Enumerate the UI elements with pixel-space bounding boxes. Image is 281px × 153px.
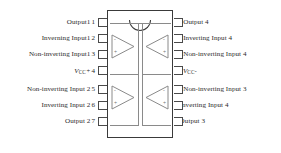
rail-center-lower-2 [142,74,143,126]
pin-label-12: 12Non-inverting Input 4 [175,50,248,59]
pinout-diagram: Output11 Inverning Input12 Non-inverting… [0,0,281,153]
dip-14-package-body: - + - + - + - + [107,10,173,138]
pin-1-name: Output1 [67,18,91,26]
pin-label-2: Inverning Input12 [42,34,96,43]
pin-6-number: 6 [90,101,96,109]
pin-tab-9 [174,101,183,110]
pin-12-name: Non-inverting Input 4 [182,50,247,58]
pin-tab-11 [174,66,183,75]
vcc-minus-symbol: VCC- [182,67,198,75]
pin-10-name: Non-inverting Input 3 [182,85,247,93]
rail-center-upper [138,23,139,75]
rail-center-upper-2 [142,23,143,75]
pin-label-1: Output11 [67,18,96,27]
pin-tab-4 [98,66,107,75]
pin-4-number: 4 [90,67,96,75]
rail-bottom-left [110,125,138,126]
opamp-2-inverting-sign: - [114,88,116,93]
pin-3-name: Non-inverting Input1 [29,50,90,58]
pin-tab-5 [98,85,107,94]
opamp-3-noninverting-sign: + [163,101,166,106]
rail-mid-left [110,74,138,75]
pin-5-name: Non-inverting Input 2 [27,85,90,93]
pin-label-4: VCC+4 [74,66,96,77]
pin-2-name: Inverning Input1 [42,34,91,42]
pin-7-name: Output 2 [65,117,90,125]
pin-9-name: Inverting Input 4 [179,101,230,109]
pin-label-3: Non-inverting Input13 [29,50,96,59]
opamp-4-inverting-sign: - [163,37,165,42]
pin-label-6: Inverting Input 26 [41,101,96,110]
pin-7-number: 7 [90,117,96,125]
opamp-1-inverting-sign: - [114,37,116,42]
rail-center-lower [138,74,139,126]
opamp-4-symbol: - + [145,33,170,60]
rail-top [110,23,171,24]
pin-14-name: Output 4 [182,18,209,26]
pin-tab-2 [98,34,107,43]
rail-bottom-right [142,125,171,126]
opamp-2-noninverting-sign: + [114,101,117,106]
pin-6-name: Inverting Input 2 [41,101,90,109]
pin-tab-7 [98,117,107,126]
pin-tab-3 [98,50,107,59]
opamp-3-inverting-sign: - [163,88,165,93]
pin-tab-10 [174,85,183,94]
opamp-4-noninverting-sign: + [163,50,166,55]
pin-label-7: Output 27 [65,117,96,126]
pin-13-name: Inverting Input 4 [182,34,233,42]
pin-tab-8 [174,117,183,126]
pin-label-5: Non-inverting Input 25 [27,85,96,94]
pin-1-number: 1 [90,18,96,26]
opamp-1-noninverting-sign: + [114,50,117,55]
pin-3-number: 3 [90,50,96,58]
rail-mid-right [142,74,171,75]
pin-label-10: 10Non-inverting Input 3 [175,85,248,94]
opamp-2-symbol: - + [110,84,135,111]
opamp-3-symbol: - + [145,84,170,111]
pin-tab-13 [174,34,183,43]
package-notch-icon [129,20,151,31]
opamp-1-symbol: - + [110,33,135,60]
pin-tab-14 [174,18,183,27]
pin-tab-12 [174,50,183,59]
pin-tab-1 [98,18,107,27]
pin-5-number: 5 [90,85,96,93]
pin-label-13: 13Inverting Input 4 [175,34,233,43]
pin-label-9: 9Inverting Input 4 [175,101,230,110]
pin-tab-6 [98,101,107,110]
vcc-plus-symbol: VCC+ [74,67,90,75]
pin-2-number: 2 [90,34,96,42]
